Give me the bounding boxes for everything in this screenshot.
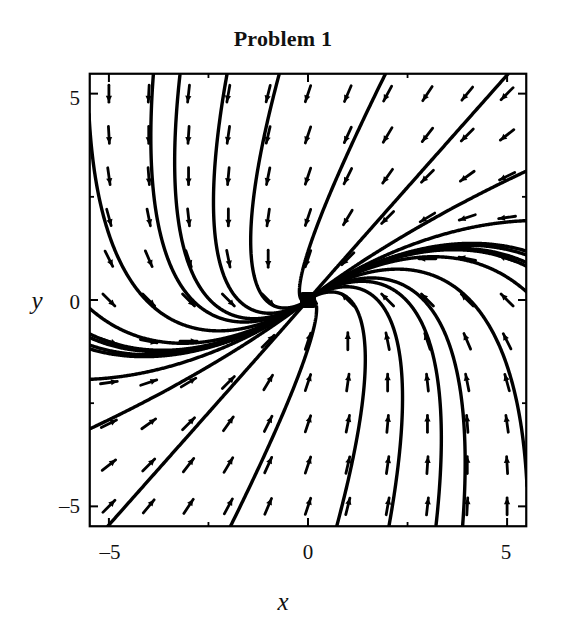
y-tick-label-minus5: –5	[32, 494, 80, 519]
x-axis-label: x	[0, 588, 566, 616]
y-tick-label-5: 5	[40, 86, 80, 111]
x-tick-label-zero: 0	[303, 540, 314, 565]
y-tick-label-zero: 0	[40, 290, 80, 315]
phase-portrait-plot	[0, 0, 566, 636]
x-tick-label-minus5: –5	[100, 540, 121, 565]
x-tick-label-5: 5	[501, 540, 512, 565]
figure-panel: Problem 1 x y –5 0 5 5 0 –5	[0, 0, 566, 636]
page-title: Problem 1	[0, 26, 566, 52]
critical-point-marker	[300, 292, 316, 308]
